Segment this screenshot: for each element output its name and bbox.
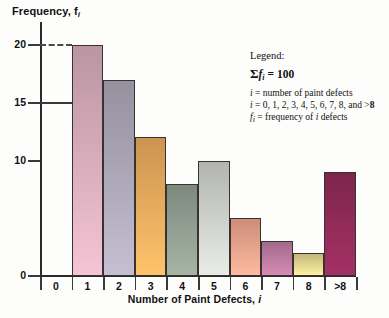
x-tick-sep bbox=[40, 277, 42, 290]
legend-f-text-a: = frequency of bbox=[257, 112, 315, 122]
bar-3 bbox=[135, 137, 167, 276]
x-tick-sep bbox=[324, 277, 326, 290]
y-tick-15 bbox=[28, 102, 40, 104]
x-axis-title: Number of Paint Defects, i bbox=[0, 293, 389, 305]
legend-sum-subscript: i bbox=[262, 73, 264, 82]
x-tick-sep bbox=[293, 277, 295, 290]
bar-5 bbox=[198, 161, 230, 276]
legend-f-subscript: i bbox=[253, 115, 255, 124]
x-tick-sep bbox=[72, 277, 74, 290]
bar-2 bbox=[103, 80, 135, 276]
bar-8 bbox=[293, 253, 325, 276]
x-tick-sep bbox=[261, 277, 263, 290]
y-tick-label-15: 15 bbox=[0, 96, 26, 108]
bar-1 bbox=[72, 45, 104, 276]
legend: Legend: Σfi = 100 i = number of paint de… bbox=[250, 50, 386, 126]
legend-i-text: = number of paint defects bbox=[255, 88, 353, 98]
y-tick-label-20: 20 bbox=[0, 38, 26, 50]
x-tick-sep bbox=[356, 277, 358, 290]
y-axis-title: Frequency, fi bbox=[12, 5, 80, 19]
y-tick-label-0: 0 bbox=[0, 269, 26, 281]
bar-4 bbox=[166, 184, 198, 276]
legend-i-values-var: i bbox=[250, 100, 253, 110]
legend-line-f-definition: fi = frequency of i defects bbox=[250, 111, 386, 126]
sigma-icon: Σ bbox=[250, 66, 259, 81]
y-tick-0 bbox=[28, 275, 40, 277]
y-axis-title-text: Frequency, f bbox=[12, 5, 78, 17]
x-axis-title-text: Number of Paint Defects, bbox=[128, 293, 258, 305]
bar->8 bbox=[324, 172, 356, 276]
legend-sum-value: = 100 bbox=[267, 68, 294, 80]
legend-sum-line: Σfi = 100 bbox=[250, 66, 386, 82]
y-tick-label-10: 10 bbox=[0, 154, 26, 166]
legend-f-text-b: defects bbox=[318, 112, 347, 122]
x-tick-sep bbox=[166, 277, 168, 290]
y-tick-10 bbox=[28, 160, 40, 162]
x-tick-sep bbox=[198, 277, 200, 290]
x-tick-sep bbox=[135, 277, 137, 290]
legend-heading: Legend: bbox=[250, 50, 386, 61]
bar-6 bbox=[230, 218, 262, 276]
legend-line-i-definition: i = number of paint defects bbox=[250, 87, 386, 99]
histogram-chart: Frequency, fi 0101520 012345678>8 Number… bbox=[0, 0, 389, 318]
y-tick-20 bbox=[28, 44, 40, 46]
x-tick-sep bbox=[230, 277, 232, 290]
legend-i-var: i bbox=[250, 88, 253, 98]
x-axis-title-italic: i bbox=[258, 293, 261, 305]
legend-i-values-bold: 8 bbox=[370, 100, 375, 110]
y-axis-title-subscript: i bbox=[78, 10, 80, 19]
legend-line-i-values: i = 0, 1, 2, 3, 4, 5, 6, 7, 8, and >8 bbox=[250, 99, 386, 111]
x-tick-sep bbox=[103, 277, 105, 290]
bar-7 bbox=[261, 241, 293, 276]
legend-i-values-text: = 0, 1, 2, 3, 4, 5, 6, 7, 8, and > bbox=[255, 100, 370, 110]
